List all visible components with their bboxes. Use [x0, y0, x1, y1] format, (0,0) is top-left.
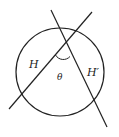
label-theta: θ [57, 72, 63, 82]
label-h-prime: H′ [86, 66, 100, 79]
line-h [9, 12, 92, 109]
diagram-canvas: H θ H′ [0, 0, 119, 137]
angle-arc [56, 55, 71, 59]
label-h: H [28, 58, 39, 71]
